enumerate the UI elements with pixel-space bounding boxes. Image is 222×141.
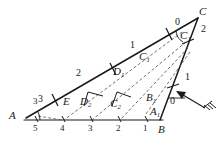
angle-label-C-zero: 0 [175,17,180,27]
baseline-tick [145,116,148,122]
segment-label-ac-lower: 3 [38,94,43,104]
point-label-A1: A1 [150,106,160,118]
vertex-label-B: B [158,124,165,135]
vertex-label-C: C [199,6,206,17]
vertex-label-A: A [9,110,16,121]
baseline-tick-label-4: 4 [60,124,65,133]
point-label-B1: B1 [146,92,156,104]
line-C-to-B [160,18,198,120]
segment-label-cb-lower: 1 [185,72,190,82]
dashed-line-5 [38,116,62,120]
point-label-C1-apex: C1 [180,30,191,42]
baseline-tick-label-3: 3 [88,124,93,133]
angle-label-B-zero: 0 [170,96,175,106]
point-label-D2: D2 [80,96,91,108]
segment-label-cb-upper: 2 [201,24,206,34]
segment-label-ac-upper: 1 [130,40,135,50]
baseline-tick [62,116,65,122]
baseline-tick [118,116,121,122]
point-label-C2: C2 [110,98,121,110]
point-label-E: E [63,96,70,107]
point-label-C1-mid: C1 [139,51,150,63]
baseline-tick-label-5: 5 [33,124,38,133]
point-label-D1: D1 [113,66,124,78]
geometry-figure: A 3 5 4 3 2 1 B C E 3 2 1 2 1 0 0 C1 C1 … [0,0,222,141]
baseline-tick-label-2: 2 [116,124,121,133]
vertex-A-above-label: 3 [33,97,38,106]
baseline-tick-label-1: 1 [143,124,148,133]
segment-label-ac-middle: 2 [76,68,81,78]
baseline-tick [35,116,38,122]
